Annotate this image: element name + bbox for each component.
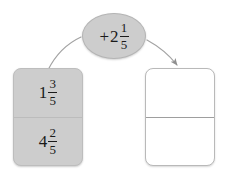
operation-denominator: 5: [120, 38, 129, 52]
input-numerator-1: 3: [49, 77, 58, 91]
output-cell-2[interactable]: [146, 117, 214, 166]
fraction-function-machine-diagram: + 2 1 5 1 3 5 4 2: [0, 0, 226, 179]
input-value-1: 1 3 5: [39, 77, 58, 108]
input-cell-1[interactable]: 1 3 5: [14, 69, 82, 117]
output-card: [145, 68, 215, 166]
output-cell-1[interactable]: [146, 69, 214, 117]
operation-expression: + 2 1 5: [99, 21, 128, 52]
input-fraction-2: 2 5: [48, 126, 57, 157]
operation-fraction: 1 5: [120, 21, 129, 52]
input-fraction-1: 3 5: [48, 77, 57, 108]
input-card: 1 3 5 4 2 5: [13, 68, 83, 166]
input-whole-1: 1: [39, 84, 48, 101]
input-cell-2[interactable]: 4 2 5: [14, 117, 82, 166]
operation-whole: 2: [110, 28, 119, 45]
operation-operator: +: [99, 28, 109, 45]
input-value-2: 4 2 5: [39, 126, 58, 157]
input-denominator-2: 5: [49, 143, 58, 157]
input-denominator-1: 5: [49, 94, 58, 108]
operation-numerator: 1: [120, 21, 129, 35]
input-whole-2: 4: [39, 133, 48, 150]
connector-input-to-operation: [48, 37, 81, 70]
operation-bubble[interactable]: + 2 1 5: [82, 13, 146, 59]
connector-operation-to-output: [147, 40, 177, 65]
input-numerator-2: 2: [49, 126, 58, 140]
